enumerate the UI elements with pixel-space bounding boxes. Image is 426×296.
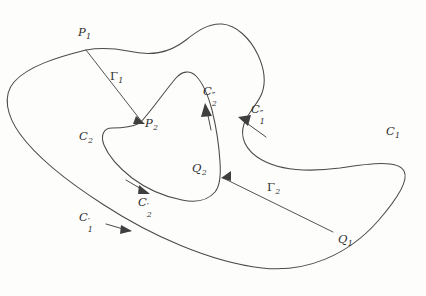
curve-label-c1: C1: [386, 126, 400, 138]
figure-canvas: P1 P2 Q2 Q1 C1 C2 C′1 C′2 C″1 C″2 Γ1 Γ2: [0, 0, 426, 296]
connector-gamma1: [86, 50, 142, 122]
connector-label-gamma2: Γ2: [267, 182, 280, 194]
curve-label-c2-prime: C′2: [138, 197, 152, 209]
point-label-q2: Q2: [192, 163, 207, 175]
curve-label-c2: C2: [79, 131, 93, 143]
curve-label-c1-prime: C′1: [79, 212, 93, 224]
arrowhead-c1-prime: [120, 225, 132, 234]
diagram-svg: [0, 0, 426, 296]
point-label-p2: P2: [145, 118, 158, 130]
curve-label-c2-double-prime: C″2: [203, 86, 217, 98]
curve-label-c1-double-prime: C″1: [251, 104, 265, 116]
arrowhead-gamma2: [221, 171, 231, 181]
point-label-q1: Q1: [338, 234, 353, 246]
point-label-p1: P1: [78, 27, 91, 39]
connector-label-gamma1: Γ1: [110, 71, 123, 83]
